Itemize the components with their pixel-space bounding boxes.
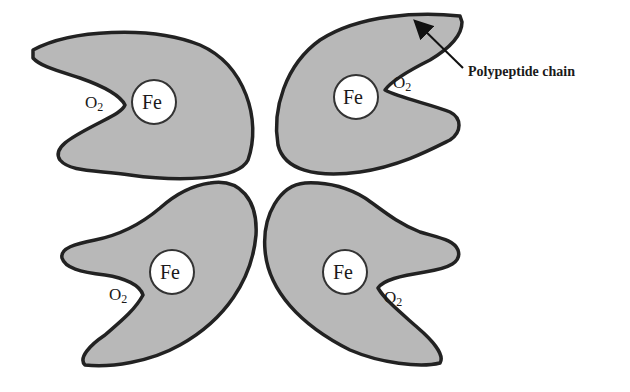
o2-label-top-left: O2 [85,93,103,114]
fe-label-bottom-right: Fe [333,261,353,283]
o2-label-top-right: O2 [393,73,411,94]
subunit-bottom-left: Fe O2 [62,182,256,365]
fe-label-top-left: Fe [142,91,162,113]
subunit-bottom-right: Fe O2 [265,183,459,365]
callout-label: Polypeptide chain [468,64,575,79]
o2-label-bottom-left: O2 [109,285,127,306]
fe-label-top-right: Fe [343,86,363,108]
fe-label-bottom-left: Fe [160,261,180,283]
hemoglobin-diagram: Fe O2 Fe O2 Fe O2 Fe O2 Polypeptide cha [0,0,630,392]
subunit-top-left: Fe O2 [33,32,253,178]
subunit-top-right: Fe O2 [277,14,462,173]
o2-label-bottom-right: O2 [384,288,402,309]
